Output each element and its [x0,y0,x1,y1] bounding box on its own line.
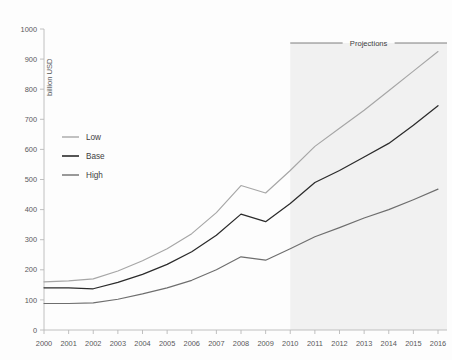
y-axis-title-label: billion USD [45,58,54,96]
x-tick-label: 2009 [257,339,273,348]
x-tick-label: 2007 [208,339,224,348]
legend-label-base: Base [86,152,105,161]
projection-shade-rect [290,43,447,330]
y-tick-label: 200 [25,265,37,274]
y-tick-label: 300 [25,235,37,244]
y-tick-label: 800 [25,85,37,94]
x-tick-label: 2005 [159,339,175,348]
legend-label-low: Low [86,133,101,142]
x-tick-label: 2013 [356,339,372,348]
x-tick-label: 2002 [85,339,101,348]
y-tick-label: 900 [25,55,37,64]
legend-label-high: High [86,171,103,180]
x-tick-label: 2004 [134,339,150,348]
x-tick-label: 2000 [36,339,52,348]
y-tick-label: 100 [25,296,37,305]
y-tick-label: 0 [33,326,37,335]
x-tick-label: 2003 [110,339,126,348]
x-tick-label: 2001 [60,339,76,348]
y-tick-label: 500 [25,175,37,184]
y-tick-label: 400 [25,205,37,214]
y-tick-label: 600 [25,145,37,154]
projection-shaded-region [290,43,447,330]
y-axis-title: billion USD [45,58,54,96]
x-tick-label: 2015 [405,339,421,348]
y-tick-label: 1000 [21,25,37,34]
chart-container: 01002003004005006007008009001000 2000200… [0,0,452,360]
line-chart: 01002003004005006007008009001000 2000200… [0,0,452,360]
x-tick-label: 2011 [307,339,323,348]
x-tick-label: 2014 [381,339,397,348]
y-tick-label: 700 [25,115,37,124]
projection-annotation-label: Projections [350,39,388,48]
x-tick-label: 2006 [184,339,200,348]
x-tick-label: 2010 [282,339,298,348]
x-tick-label: 2016 [430,339,446,348]
x-tick-label: 2012 [331,339,347,348]
x-tick-label: 2008 [233,339,249,348]
